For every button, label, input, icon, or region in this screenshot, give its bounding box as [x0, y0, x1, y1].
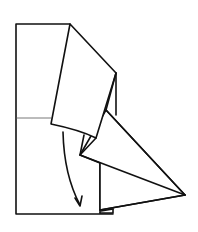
diagram-canvas	[0, 0, 198, 232]
origami-diagram	[0, 0, 198, 232]
fold-arrow-icon	[63, 132, 82, 206]
